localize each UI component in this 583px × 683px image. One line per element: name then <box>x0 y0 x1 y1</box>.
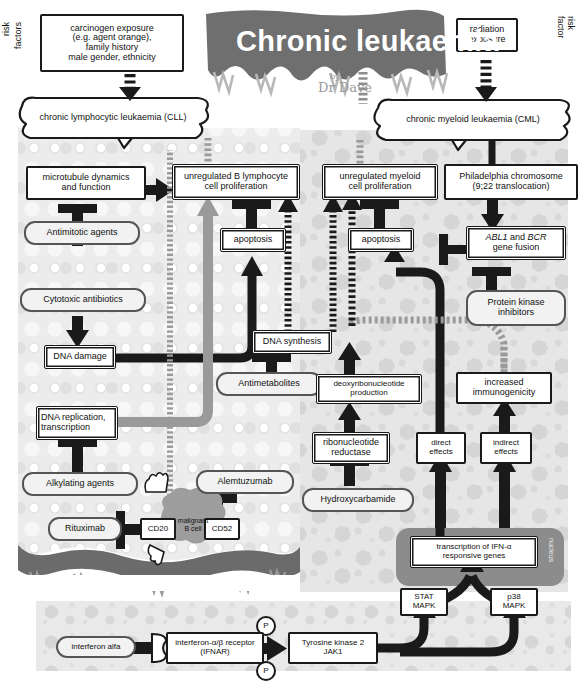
box-apoptosis-cml: apoptosis <box>348 228 414 252</box>
risk-factors-label-left: risk <box>2 22 11 36</box>
box-ribonucleotide-reductase: ribonucleotide reductase <box>312 432 390 464</box>
box-microtubule-dynamics: microtubule dynamics and function <box>26 166 146 200</box>
bcr-gene: BCR <box>528 232 547 242</box>
cll-label: chronic lymphocytic leukaemia (CLL) <box>24 104 202 132</box>
diagram-canvas: risk factors risk factor carcinogen expo… <box>0 0 583 683</box>
phospho-icon-top: P <box>258 618 274 634</box>
drug-hydroxycarbamide: Hydroxycarbamide <box>302 488 414 512</box>
drug-antimitotic-agents: Antimitotic agents <box>24 221 140 245</box>
box-dna-damage: DNA damage <box>44 345 116 369</box>
phospho-icon-bottom: P <box>258 663 274 679</box>
drug-protein-kinase-inhibitors: Protein kinase inhibitors <box>466 290 566 326</box>
box-direct-effects: direct effects <box>416 432 466 464</box>
box-ifnar-receptor: interferon-α/β receptor (IFNAR) <box>166 632 264 664</box>
nucleus-label: nucleus <box>548 538 555 562</box>
author-signature: Dr Dave <box>318 80 372 95</box>
drug-antimetabolites: Antimetabolites <box>216 372 322 396</box>
drug-cytotoxic-antibiotics: Cytotoxic antibiotics <box>20 288 146 312</box>
receptor-cd20: CD20 <box>140 518 176 540</box>
box-myeloid-proliferation: unregulated myeloid cell proliferation <box>322 164 438 200</box>
risk-box-carcinogen: carcinogen exposure (e.g. agent orange),… <box>40 14 184 72</box>
page-title: Chronic leukaemia <box>236 25 499 58</box>
cml-label: chronic myeloid leukaemia (CML) <box>380 106 566 134</box>
risk-factor-label-right: risk <box>566 16 575 30</box>
risk-factor-label-right-2: factor <box>556 16 565 39</box>
box-transcription-ifn-genes: transcription of IFN-α responsive genes <box>410 536 538 568</box>
malignant-b-cell-label: malignant B cell <box>172 512 214 538</box>
box-dna-replication: DNA replication, transcription <box>36 406 118 440</box>
dashed-arrow-right-risk <box>475 60 497 102</box>
box-increased-immunogenicity: increased immunogenicity <box>456 372 552 404</box>
box-dna-synthesis: DNA synthesis <box>252 330 332 354</box>
risk-factors-label-left-2: factors <box>14 22 23 49</box>
box-abl1-bcr-fusion: ABL1 and BCR gene fusion <box>466 226 566 260</box>
box-indirect-effects: indirect effects <box>480 432 532 464</box>
ligand-interferon-alfa: interferon alfa <box>56 636 136 658</box>
box-stat-mapk: STAT MAPK <box>400 588 448 616</box>
box-p38-mapk: p38 MAPK <box>490 588 538 616</box>
abl1-gene: ABL1 <box>485 232 507 242</box>
box-deoxyribonucleotide-production: deoxyribonucleotide production <box>316 374 422 404</box>
box-philadelphia-chromosome: Philadelphia chromosome (9;22 translocat… <box>444 164 578 200</box>
box-tyrosine-kinase-jak1: Tyrosine kinase 2 JAK1 <box>288 632 378 664</box>
drug-alkylating-agents: Alkylating agents <box>22 472 138 496</box>
drug-rituximab: Rituximab <box>48 517 122 541</box>
box-apoptosis-cll: apoptosis <box>220 228 286 252</box>
box-b-lymphocyte-proliferation: unregulated B lymphocyte cell proliferat… <box>172 164 300 200</box>
drug-alemtuzumab: Alemtuzumab <box>196 470 294 494</box>
cell-gap <box>0 575 300 591</box>
